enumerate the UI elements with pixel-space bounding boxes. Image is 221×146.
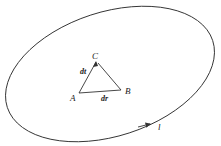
diagram-canvas: C A B dt dr l <box>0 0 221 146</box>
vertex-a-label: A <box>69 93 76 103</box>
curve-label: l <box>158 122 161 132</box>
edge-ab-label: dr <box>101 94 109 103</box>
edge-ac-label: dt <box>80 67 87 76</box>
vertex-b-label: B <box>125 86 131 96</box>
closed-loop-curve <box>0 0 221 146</box>
arrow-tip-c-icon <box>93 61 98 67</box>
triangle <box>79 61 121 93</box>
vertex-c-label: C <box>92 51 99 61</box>
